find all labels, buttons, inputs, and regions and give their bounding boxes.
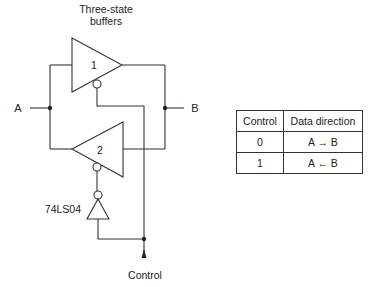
truth-table-header-row: Control Data direction [237, 111, 363, 132]
buffer-1-enable-bubble [93, 80, 101, 88]
junction-a-dot [48, 106, 52, 110]
title-line-1: Three-state [79, 3, 133, 15]
row-1-control: 1 [237, 153, 284, 174]
wire-control-to-inverter [98, 219, 144, 239]
node-a-label: A [14, 102, 22, 114]
junction-b-dot [163, 106, 167, 110]
title-line-2: buffers [90, 15, 122, 27]
truth-table: Control Data direction 0 A → B 1 A ← B [236, 110, 363, 174]
inverter-label: 74LS04 [45, 203, 81, 215]
inverter-triangle [87, 199, 109, 219]
table-row: 1 A ← B [237, 153, 363, 174]
node-b-label: B [191, 102, 198, 114]
control-arrow-icon [142, 249, 147, 258]
row-0-direction: A → B [284, 132, 363, 153]
buffer-1-label: 1 [91, 59, 97, 71]
control-label: Control [128, 269, 162, 281]
junction-control-dot [142, 237, 146, 241]
header-data-direction: Data direction [284, 111, 363, 132]
header-control: Control [237, 111, 284, 132]
row-0-control: 0 [237, 132, 284, 153]
buffer-2-label: 2 [97, 144, 103, 156]
buffer-2-enable-bubble [93, 163, 101, 171]
table-row: 0 A → B [237, 132, 363, 153]
control-wire [97, 88, 144, 258]
row-1-direction: A ← B [284, 153, 363, 174]
inverter-output-bubble [94, 191, 102, 199]
